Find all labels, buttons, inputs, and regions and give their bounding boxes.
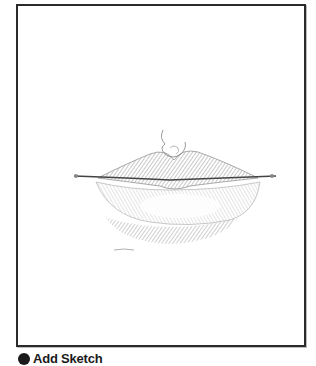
circle-icon <box>18 353 30 365</box>
sketch-frame <box>16 4 306 347</box>
lips-sketch-image <box>70 112 278 267</box>
add-sketch-button[interactable]: Add Sketch <box>18 352 103 366</box>
add-sketch-label: Add Sketch <box>33 352 103 366</box>
